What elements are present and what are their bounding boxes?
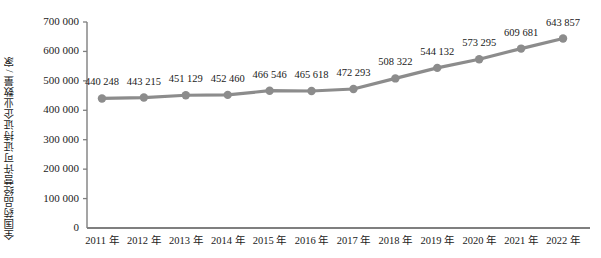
y-axis-tick-label: 100 000 [43, 193, 79, 204]
chart-canvas [0, 0, 601, 258]
x-axis-tick-label: 2012 年 [120, 235, 168, 247]
y-axis-tick-label: 300 000 [43, 134, 79, 145]
data-point-marker [475, 55, 483, 63]
x-axis-tick-label: 2016 年 [288, 235, 336, 247]
data-point-label: 609 681 [495, 27, 547, 38]
data-point-marker [182, 91, 190, 99]
x-axis-tick-label: 2017 年 [329, 235, 377, 247]
y-axis-tick-label: 400 000 [43, 104, 79, 115]
x-axis-tick-label: 2011 年 [78, 235, 126, 247]
y-axis-tick-label: 600 000 [43, 45, 79, 56]
data-point-marker [307, 87, 315, 95]
data-point-label: 508 322 [369, 56, 421, 67]
x-axis-tick-label: 2020 年 [455, 235, 503, 247]
data-point-marker [98, 94, 106, 102]
data-point-label: 472 293 [327, 67, 379, 78]
data-point-label: 643 857 [537, 17, 589, 28]
data-point-marker [265, 87, 273, 95]
data-point-marker [517, 44, 525, 52]
data-point-marker [224, 91, 232, 99]
data-point-marker [140, 93, 148, 101]
axes [83, 22, 590, 228]
y-axis-tick-label: 200 000 [43, 163, 79, 174]
data-point-marker [559, 34, 567, 42]
y-axis-tick-label: 0 [74, 222, 80, 233]
x-axis-tick-label: 2021 年 [497, 235, 545, 247]
line-chart: 全国药品经营许可证持证企业数量 / 家 0100 000200 000300 0… [0, 0, 601, 258]
y-axis-tick-label: 700 000 [43, 16, 79, 27]
x-axis-tick-label: 2022 年 [539, 235, 587, 247]
y-axis-tick-label: 500 000 [43, 75, 79, 86]
x-axis-tick-label: 2013 年 [162, 235, 210, 247]
x-axis-tick-label: 2018 年 [371, 235, 419, 247]
data-point-marker [391, 74, 399, 82]
x-axis-tick-label: 2015 年 [246, 235, 294, 247]
data-point-label: 573 295 [453, 37, 505, 48]
x-axis-tick-label: 2019 年 [413, 235, 461, 247]
data-point-marker [349, 85, 357, 93]
data-point-marker [433, 64, 441, 72]
x-axis-tick-label: 2014 年 [204, 235, 252, 247]
